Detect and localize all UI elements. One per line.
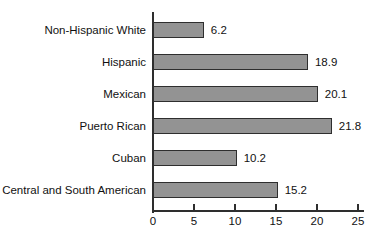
bar bbox=[153, 22, 204, 38]
bar bbox=[153, 54, 308, 70]
bar bbox=[153, 86, 318, 102]
value-label: 6.2 bbox=[211, 22, 227, 38]
x-axis-tick bbox=[152, 204, 154, 212]
category-label: Central and South American bbox=[0, 182, 146, 198]
x-axis-line bbox=[152, 210, 364, 212]
x-tick-label: 5 bbox=[183, 214, 205, 228]
bar bbox=[153, 150, 237, 166]
value-label: 10.2 bbox=[244, 150, 266, 166]
value-label: 21.8 bbox=[339, 118, 361, 134]
value-label: 20.1 bbox=[325, 86, 347, 102]
x-axis-tick bbox=[316, 204, 318, 212]
value-label: 15.2 bbox=[285, 182, 307, 198]
x-axis-tick bbox=[357, 204, 359, 212]
value-label: 18.9 bbox=[315, 54, 337, 70]
x-tick-label: 15 bbox=[265, 214, 287, 228]
x-axis-tick bbox=[275, 204, 277, 212]
category-label: Cuban bbox=[0, 150, 146, 166]
category-label: Hispanic bbox=[0, 54, 146, 70]
x-axis-tick bbox=[234, 204, 236, 212]
category-label: Mexican bbox=[0, 86, 146, 102]
x-axis-tick bbox=[193, 204, 195, 212]
category-label: Non-Hispanic White bbox=[0, 22, 146, 38]
x-tick-label: 10 bbox=[224, 214, 246, 228]
x-tick-label: 25 bbox=[347, 214, 369, 228]
x-tick-label: 20 bbox=[306, 214, 328, 228]
x-tick-label: 0 bbox=[142, 214, 164, 228]
bar-chart: Non-Hispanic White 6.2 Hispanic 18.9 Mex… bbox=[0, 0, 382, 243]
bar bbox=[153, 118, 332, 134]
category-label: Puerto Rican bbox=[0, 118, 146, 134]
bar bbox=[153, 182, 278, 198]
